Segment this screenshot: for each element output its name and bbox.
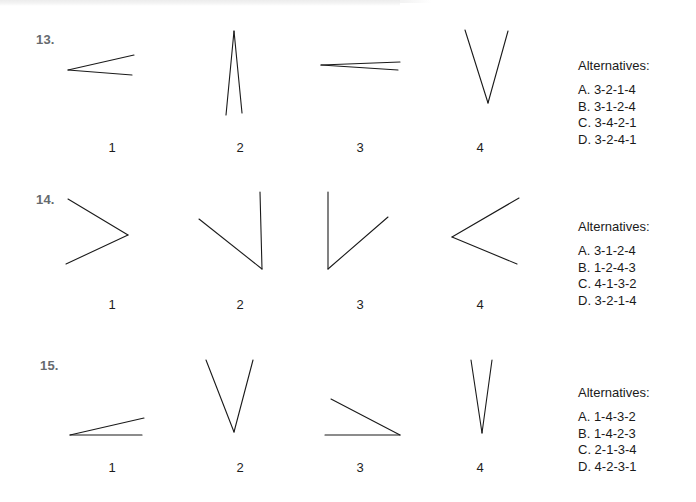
alternative-option-b[interactable]: B. 1-4-2-3 [578, 426, 696, 443]
figure-cell-13-2: 2 [180, 25, 300, 120]
alternative-option-c[interactable]: C. 2-1-3-4 [578, 442, 696, 459]
figure-cell-15-2: 2 [180, 355, 300, 445]
figure-label: 2 [180, 297, 300, 312]
alternatives-title: Alternatives: [578, 385, 696, 400]
figure-label: 3 [300, 460, 420, 475]
angle-figure-15-4 [420, 355, 540, 445]
angle-figure-14-3 [300, 187, 420, 277]
figure-cell-14-3: 3 [300, 187, 420, 277]
figure-cell-14-1: 1 [52, 187, 172, 277]
alternatives-block-14: Alternatives: A. 3-1-2-4 B. 1-2-4-3 C. 4… [578, 219, 696, 309]
angle-figure-15-3 [300, 355, 420, 445]
figure-cell-13-3: 3 [300, 25, 420, 120]
alternative-option-a[interactable]: A. 3-1-2-4 [578, 243, 696, 260]
angle-figure-13-3 [300, 25, 420, 120]
figure-cell-14-4: 4 [420, 187, 540, 277]
alternatives-list: A. 1-4-3-2 B. 1-4-2-3 C. 2-1-3-4 D. 4-2-… [578, 409, 696, 475]
angle-figure-15-1 [52, 355, 172, 445]
question-row-14: 14. 1 2 [0, 175, 696, 340]
figure-cell-15-3: 3 [300, 355, 420, 445]
alternative-option-c[interactable]: C. 4-1-3-2 [578, 276, 696, 293]
alternative-option-d[interactable]: D. 3-2-4-1 [578, 132, 696, 149]
angle-figure-13-1 [52, 25, 172, 120]
angle-figure-13-4 [420, 25, 540, 120]
alternative-option-c[interactable]: C. 3-4-2-1 [578, 115, 696, 132]
figure-cell-14-2: 2 [180, 187, 300, 277]
angle-figure-14-2 [180, 187, 300, 277]
alternative-option-a[interactable]: A. 3-2-1-4 [578, 82, 696, 99]
alternatives-block-15: Alternatives: A. 1-4-3-2 B. 1-4-2-3 C. 2… [578, 385, 696, 475]
figure-label: 1 [52, 297, 172, 312]
figure-label: 1 [52, 460, 172, 475]
worksheet-page: 13. 1 2 [0, 0, 696, 502]
alternative-option-a[interactable]: A. 1-4-3-2 [578, 409, 696, 426]
question-row-13: 13. 1 2 [0, 0, 696, 175]
question-row-15: 15. 1 2 [0, 340, 696, 502]
figure-label: 2 [180, 140, 300, 155]
figure-label: 4 [420, 140, 540, 155]
angle-figure-14-1 [52, 187, 172, 277]
alternative-option-d[interactable]: D. 3-2-1-4 [578, 293, 696, 310]
figure-cell-15-4: 4 [420, 355, 540, 445]
figure-label: 3 [300, 297, 420, 312]
angle-figure-13-2 [180, 25, 300, 120]
figure-label: 4 [420, 297, 540, 312]
figure-label: 4 [420, 460, 540, 475]
alternatives-list: A. 3-2-1-4 B. 3-1-2-4 C. 3-4-2-1 D. 3-2-… [578, 82, 696, 148]
alternatives-block-13: Alternatives: A. 3-2-1-4 B. 3-1-2-4 C. 3… [578, 58, 696, 148]
alternative-option-d[interactable]: D. 4-2-3-1 [578, 459, 696, 476]
figure-label: 1 [52, 140, 172, 155]
alternatives-title: Alternatives: [578, 58, 696, 73]
figure-label: 2 [180, 460, 300, 475]
alternatives-title: Alternatives: [578, 219, 696, 234]
angle-figure-14-4 [420, 187, 540, 277]
figure-cell-13-4: 4 [420, 25, 540, 120]
angle-figure-15-2 [180, 355, 300, 445]
figure-cell-15-1: 1 [52, 355, 172, 445]
alternative-option-b[interactable]: B. 1-2-4-3 [578, 260, 696, 277]
figure-label: 3 [300, 140, 420, 155]
alternatives-list: A. 3-1-2-4 B. 1-2-4-3 C. 4-1-3-2 D. 3-2-… [578, 243, 696, 309]
figure-cell-13-1: 1 [52, 25, 172, 120]
alternative-option-b[interactable]: B. 3-1-2-4 [578, 99, 696, 116]
